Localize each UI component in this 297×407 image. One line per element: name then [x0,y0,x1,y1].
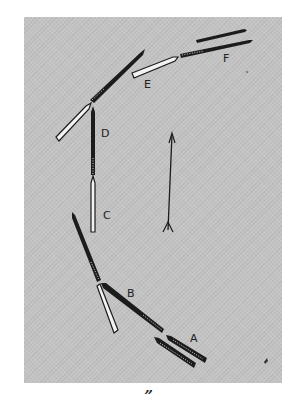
speck-dot [246,71,248,73]
label-a: A [190,332,198,345]
figure-caption: ” [0,387,297,405]
rocket-d [91,106,95,175]
rocket-f-lower [180,40,253,58]
label-c: C [103,209,111,222]
rocket-c [91,176,95,232]
rocket-d-separated-stage [56,103,91,141]
up-arrow-icon [163,133,175,232]
rocket-e [132,57,178,78]
label-d: D [101,127,109,140]
label-e: E [144,78,151,91]
label-b: B [127,287,135,300]
rocket-b-upper-stage [72,212,101,282]
rocket-f-upper [196,29,247,43]
label-f: F [223,52,229,65]
rocket-staging-diagram: F E D C B [0,0,297,407]
speck-mark [264,358,268,364]
